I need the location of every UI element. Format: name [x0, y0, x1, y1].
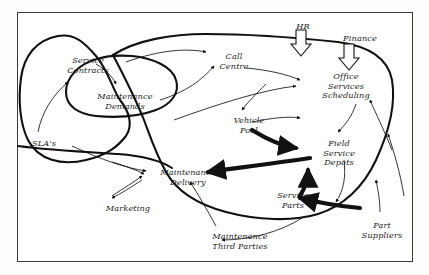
arrow-slas-to-service-contracts: [38, 82, 68, 132]
node-call-centre: Call Centre: [214, 52, 254, 71]
node-maintenance-third-parties: Maintenance Third Parties: [204, 232, 276, 251]
node-service-contracts: Service Contracts: [60, 56, 116, 75]
hr-block-arrow: [291, 30, 311, 56]
arrow-maintenance-demands-to-call-centre: [160, 66, 214, 100]
arrow-right-lower-up: [388, 134, 404, 196]
arrow-part-suppliers-up: [376, 180, 380, 212]
node-marketing: Marketing: [100, 204, 156, 214]
node-maintenance-demands: Maintenance Demands: [92, 92, 158, 111]
diagram-canvas: Service Contracts Maintenance Demands SL…: [0, 0, 429, 275]
bold-arrow-field-service-depots-to-maintenance-delivery: [208, 158, 310, 172]
node-maintenance-delivery: Maintenance Delivery: [155, 168, 221, 187]
node-hr: HR: [291, 22, 315, 32]
arrow-slas-to-maintenance-delivery: [72, 146, 146, 171]
finance-block-arrow: [339, 44, 359, 70]
arrow-scheduling-to-field-service-depots: [338, 104, 356, 132]
node-part-suppliers: Part Suppliers: [358, 221, 406, 240]
arrow-maintenance-delivery-to-marketing: [112, 180, 142, 198]
node-vehicle-pool: Vehicle Pool: [228, 116, 270, 135]
arrow-boundary-to-maintenance-delivery: [112, 162, 144, 174]
node-field-service-depots: Field Service Depots: [316, 139, 362, 168]
node-office-services-scheduling: Office Services Scheduling: [316, 72, 376, 101]
node-slas: SLA's: [26, 139, 62, 149]
arrow-call-centre-to-office-services: [246, 68, 300, 80]
node-service-parts: Service Parts: [272, 191, 314, 210]
arrow-marketing-to-maintenance-delivery: [112, 176, 142, 196]
node-finance: Finance: [339, 34, 381, 44]
